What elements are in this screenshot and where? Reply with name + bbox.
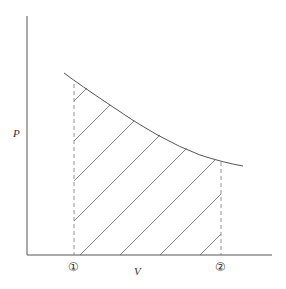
pv-diagram [0,0,286,289]
process-curve [64,73,243,166]
hatch-fill [40,55,286,275]
y-axis-label: P [13,128,20,139]
x-axis-label: V [134,266,141,277]
state2-label: ② [215,261,226,273]
state1-label: ① [68,261,79,273]
